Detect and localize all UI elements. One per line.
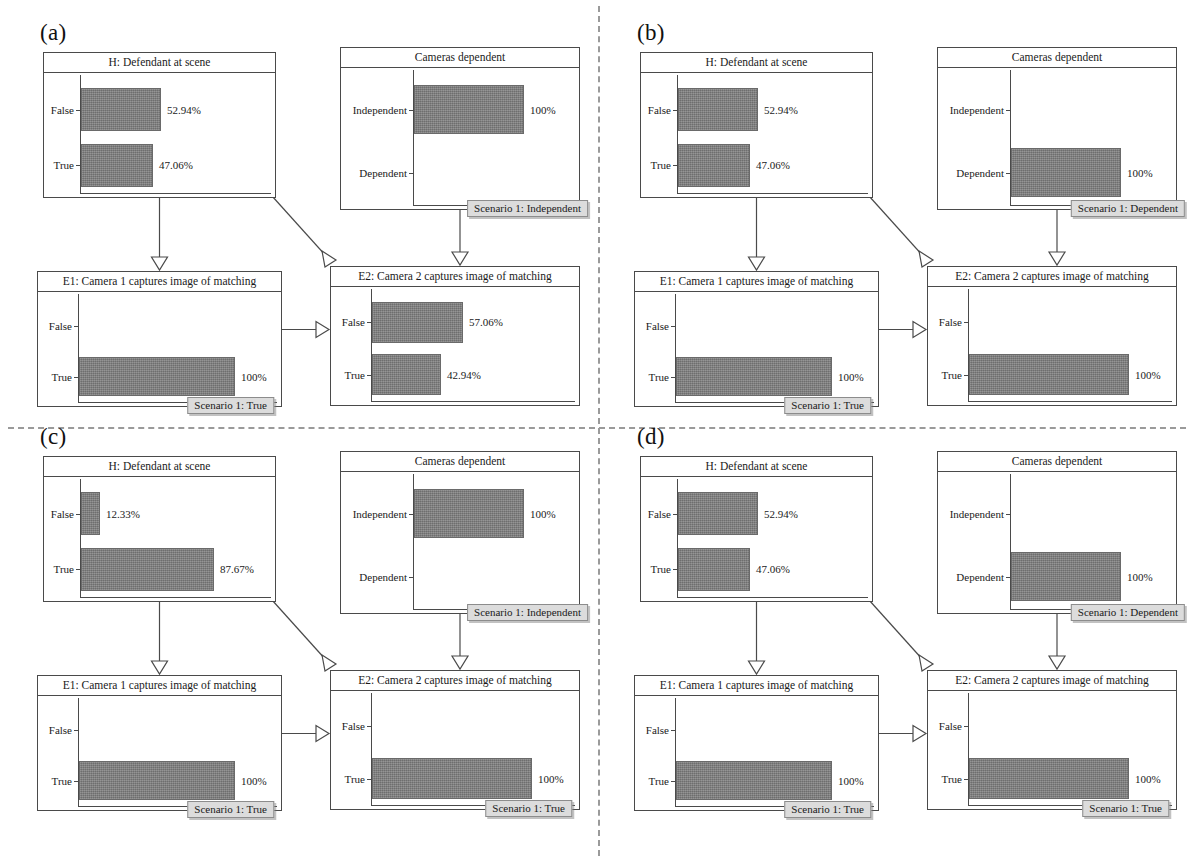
node-title: E1: Camera 1 captures image of matching [38, 676, 281, 696]
category-label: Independent [940, 104, 1004, 116]
bar [81, 88, 161, 131]
category-label: Dependent [940, 167, 1004, 179]
category-label: False [930, 720, 962, 732]
node-plot: False52.94%True47.06% [641, 476, 872, 601]
bar-value-label: 87.67% [220, 563, 254, 575]
node-plot: FalseTrue100% [928, 690, 1176, 809]
node-plot: FalseTrue100% [38, 695, 281, 810]
bar-value-label: 100% [241, 775, 267, 787]
node-title: Cameras dependent [341, 452, 579, 472]
node-b-e2[interactable]: E2: Camera 2 captures image of matchingF… [927, 266, 1177, 406]
node-c-h[interactable]: H: Defendant at sceneFalse12.33%True87.6… [43, 456, 276, 602]
axis-tick [671, 730, 676, 731]
scenario-badge-c-cam[interactable]: Scenario 1: Independent [467, 604, 588, 621]
category-label: False [930, 316, 962, 328]
scenario-badge-c-e1[interactable]: Scenario 1: True [187, 801, 274, 818]
scenario-badge-a-cam[interactable]: Scenario 1: Independent [467, 200, 588, 217]
node-title: E1: Camera 1 captures image of matching [38, 272, 281, 292]
node-c-cam[interactable]: Cameras dependentIndependent100%Dependen… [340, 451, 580, 614]
bar [676, 761, 832, 800]
bar [81, 548, 214, 591]
category-label: False [643, 104, 671, 116]
category-label: Independent [343, 508, 407, 520]
axis-baseline [677, 597, 868, 598]
node-c-e2[interactable]: E2: Camera 2 captures image of matchingF… [330, 670, 580, 810]
bar-value-label: 100% [538, 773, 564, 785]
node-b-e1[interactable]: E1: Camera 1 captures image of matchingF… [634, 271, 879, 407]
category-label: True [930, 773, 962, 785]
axis-tick [74, 730, 79, 731]
axis-tick [1006, 514, 1011, 515]
axis-tick [367, 726, 372, 727]
node-c-e1[interactable]: E1: Camera 1 captures image of matchingF… [37, 675, 282, 811]
node-plot: False52.94%True47.06% [641, 72, 872, 197]
node-title: Cameras dependent [938, 452, 1176, 472]
node-b-h[interactable]: H: Defendant at sceneFalse52.94%True47.0… [640, 52, 873, 198]
node-plot: False52.94%True47.06% [44, 72, 275, 197]
category-label: Independent [940, 508, 1004, 520]
scenario-badge-d-e2[interactable]: Scenario 1: True [1082, 800, 1169, 817]
node-a-e1[interactable]: E1: Camera 1 captures image of matchingF… [37, 271, 282, 407]
node-title: E2: Camera 2 captures image of matching [331, 671, 579, 691]
category-label: True [637, 371, 669, 383]
node-title: H: Defendant at scene [44, 53, 275, 73]
bar [678, 144, 750, 187]
bar [969, 354, 1129, 395]
category-label: False [333, 316, 365, 328]
bar [1011, 148, 1121, 197]
bar-value-label: 57.06% [469, 316, 503, 328]
category-label: False [637, 724, 669, 736]
node-a-e2[interactable]: E2: Camera 2 captures image of matchingF… [330, 266, 580, 406]
scenario-badge-c-e2[interactable]: Scenario 1: True [485, 800, 572, 817]
axis-tick [1006, 110, 1011, 111]
node-plot: Independent100%Dependent [341, 471, 579, 613]
category-label: Dependent [940, 571, 1004, 583]
axis-tick [74, 326, 79, 327]
bar-value-label: 12.33% [106, 508, 140, 520]
category-label: Independent [343, 104, 407, 116]
node-plot: IndependentDependent100% [938, 471, 1176, 613]
node-a-h[interactable]: H: Defendant at sceneFalse52.94%True47.0… [43, 52, 276, 198]
bar-value-label: 52.94% [167, 104, 201, 116]
node-plot: FalseTrue100% [331, 690, 579, 809]
category-label: True [40, 775, 72, 787]
bar-value-label: 52.94% [764, 508, 798, 520]
node-d-h[interactable]: H: Defendant at sceneFalse52.94%True47.0… [640, 456, 873, 602]
figure-canvas: (a)H: Defendant at sceneFalse52.94%True4… [0, 0, 1194, 862]
bar-value-label: 100% [1135, 773, 1161, 785]
node-plot: FalseTrue100% [635, 291, 878, 406]
axis-baseline [968, 401, 1172, 402]
bar-value-label: 100% [530, 508, 556, 520]
node-title: E1: Camera 1 captures image of matching [635, 272, 878, 292]
bar [81, 492, 100, 535]
category-label: True [930, 369, 962, 381]
node-title: H: Defendant at scene [641, 53, 872, 73]
node-title: H: Defendant at scene [641, 457, 872, 477]
scenario-badge-d-e1[interactable]: Scenario 1: True [784, 801, 871, 818]
category-label: False [333, 720, 365, 732]
node-a-cam[interactable]: Cameras dependentIndependent100%Dependen… [340, 47, 580, 210]
bar-value-label: 47.06% [159, 159, 193, 171]
category-label: Dependent [343, 167, 407, 179]
bar-value-label: 100% [241, 371, 267, 383]
node-title: Cameras dependent [341, 48, 579, 68]
node-d-e2[interactable]: E2: Camera 2 captures image of matchingF… [927, 670, 1177, 810]
bar [1011, 552, 1121, 601]
bar-value-label: 47.06% [756, 563, 790, 575]
bar [79, 761, 235, 800]
node-d-e1[interactable]: E1: Camera 1 captures image of matchingF… [634, 675, 879, 811]
bar [414, 489, 524, 538]
node-d-cam[interactable]: Cameras dependentIndependentDependent100… [937, 451, 1177, 614]
bar-value-label: 100% [1135, 369, 1161, 381]
category-label: True [46, 159, 74, 171]
category-label: True [637, 775, 669, 787]
category-label: False [46, 508, 74, 520]
node-b-cam[interactable]: Cameras dependentIndependentDependent100… [937, 47, 1177, 210]
category-label: False [637, 320, 669, 332]
bar [372, 302, 463, 343]
scenario-badge-b-cam[interactable]: Scenario 1: Dependent [1071, 200, 1185, 217]
category-label: False [40, 320, 72, 332]
panel-b: (b)H: Defendant at sceneFalse52.94%True4… [597, 0, 1194, 404]
scenario-badge-d-cam[interactable]: Scenario 1: Dependent [1071, 604, 1185, 621]
bar [372, 758, 532, 799]
